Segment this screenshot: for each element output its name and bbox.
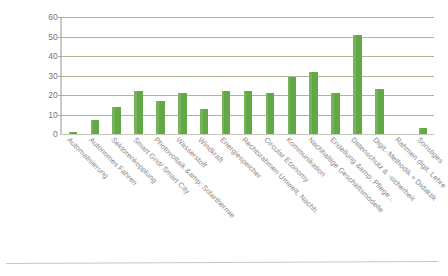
bottom-divider (6, 261, 438, 264)
bar (134, 91, 143, 134)
y-axis-tick (58, 115, 62, 116)
y-axis-tick-label: 50 (48, 32, 58, 42)
bar (244, 91, 253, 134)
bars (62, 17, 434, 134)
bar (112, 107, 121, 134)
y-axis-tick-label: 40 (48, 51, 58, 61)
y-axis-tick-label: 20 (48, 90, 58, 100)
bar (375, 89, 384, 134)
bar (222, 91, 231, 134)
plot-area (62, 17, 434, 134)
y-axis-tick-label: 10 (48, 110, 58, 120)
bar (91, 120, 100, 134)
y-axis-tick (58, 17, 62, 18)
y-axis-tick (58, 76, 62, 77)
y-axis-tick-label: 60 (48, 12, 58, 22)
y-axis-tick (58, 37, 62, 38)
y-axis-tick-label: 30 (48, 71, 58, 81)
y-axis-labels: 0102030405060 (36, 17, 58, 134)
bar (178, 93, 187, 134)
bar (266, 93, 275, 134)
bar (288, 77, 297, 134)
bar (156, 101, 165, 134)
bar (69, 132, 78, 134)
bar (309, 72, 318, 134)
y-axis-tick (58, 95, 62, 96)
bar (331, 93, 340, 134)
y-axis-tick-label: 0 (53, 129, 58, 139)
x-axis-labels: AutomatisierungAutonomes FahrenSektorenk… (62, 136, 434, 256)
bar (353, 35, 362, 134)
y-axis-tick (58, 56, 62, 57)
bar (419, 128, 428, 134)
bar (200, 109, 209, 134)
